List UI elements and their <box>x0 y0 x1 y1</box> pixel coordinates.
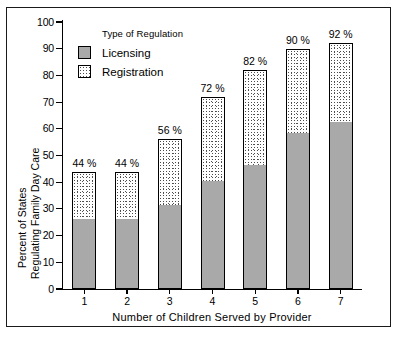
bar-4 <box>201 97 225 289</box>
y-tick <box>56 182 63 183</box>
x-tick <box>297 289 298 294</box>
legend-swatch-registration <box>78 65 91 78</box>
bar-segment-registration <box>330 44 352 123</box>
bar-segment-registration <box>202 98 224 182</box>
bar-segment-licensing <box>73 219 95 288</box>
bar-segment-licensing <box>244 165 266 288</box>
bar-segment-licensing <box>330 122 352 288</box>
bar-value-label: 56 % <box>147 125 193 136</box>
legend-label-registration: Registration <box>102 66 163 78</box>
chart-legend: Type of Regulation Licensing Registratio… <box>78 28 183 84</box>
y-axis-title-line1: Percent of States <box>16 187 29 268</box>
y-tick-label: 50 <box>0 150 54 160</box>
bar-chart: 0102030405060708090100 Percent of States… <box>0 0 399 338</box>
y-tick-label: 90 <box>0 43 54 53</box>
x-tick <box>212 289 213 294</box>
x-axis-title: Number of Children Served by Provider <box>62 311 362 323</box>
y-tick <box>56 48 63 49</box>
y-tick <box>56 102 63 103</box>
x-tick-label: 2 <box>112 296 142 307</box>
y-tick <box>56 288 63 289</box>
bar-5 <box>243 70 267 289</box>
x-tick <box>255 289 256 294</box>
y-tick-label: 80 <box>0 70 54 80</box>
bar-segment-registration <box>73 173 95 220</box>
legend-title: Type of Regulation <box>102 28 183 39</box>
bar-2 <box>115 172 139 289</box>
y-tick-label: 0 <box>0 284 54 294</box>
bar-segment-registration <box>116 173 138 220</box>
y-tick <box>56 208 63 209</box>
bar-segment-licensing <box>287 133 309 288</box>
legend-item-licensing: Licensing <box>78 46 183 59</box>
x-tick-label: 5 <box>240 296 270 307</box>
legend-swatch-licensing <box>78 46 91 59</box>
bar-segment-licensing <box>116 219 138 288</box>
x-tick <box>84 289 85 294</box>
bar-6 <box>286 49 310 289</box>
x-tick-label: 1 <box>69 296 99 307</box>
bar-segment-registration <box>287 50 309 134</box>
y-tick-label: 70 <box>0 97 54 107</box>
x-tick <box>169 289 170 294</box>
bar-3 <box>158 139 182 289</box>
y-tick-label: 60 <box>0 123 54 133</box>
bar-segment-licensing <box>202 181 224 288</box>
x-tick-label: 6 <box>283 296 313 307</box>
bar-1 <box>72 172 96 289</box>
x-tick <box>340 289 341 294</box>
bar-value-label: 44 % <box>104 158 150 169</box>
y-tick-label: 40 <box>0 177 54 187</box>
bar-segment-licensing <box>159 205 181 288</box>
bar-segment-registration <box>244 71 266 166</box>
x-tick-label: 3 <box>155 296 185 307</box>
x-tick <box>126 289 127 294</box>
y-tick <box>56 155 63 156</box>
y-tick <box>56 75 63 76</box>
y-tick-label: 100 <box>0 17 54 27</box>
x-tick-label: 4 <box>198 296 228 307</box>
bar-value-label: 92 % <box>318 29 364 40</box>
y-tick <box>56 128 63 129</box>
y-tick <box>56 21 63 22</box>
bar-value-label: 72 % <box>190 83 236 94</box>
y-tick <box>56 262 63 263</box>
y-axis-title-line2: Regulating Family Day Care <box>29 148 42 279</box>
bar-value-label: 44 % <box>61 158 107 169</box>
bar-7 <box>329 43 353 289</box>
bar-segment-registration <box>159 140 181 205</box>
y-tick <box>56 235 63 236</box>
bar-value-label: 90 % <box>275 35 321 46</box>
x-tick-label: 7 <box>326 296 356 307</box>
legend-item-registration: Registration <box>78 65 183 78</box>
bar-value-label: 82 % <box>232 56 278 67</box>
legend-label-licensing: Licensing <box>102 47 151 59</box>
